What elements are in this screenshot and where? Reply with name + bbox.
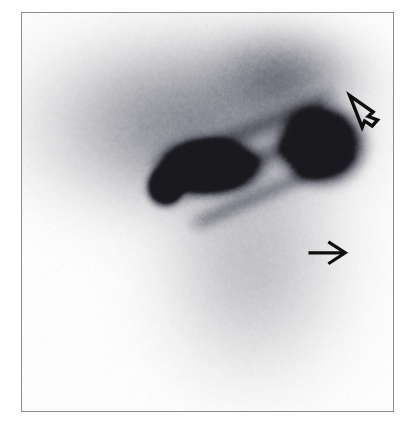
image-frame bbox=[21, 12, 394, 412]
scintigraphy-figure bbox=[0, 0, 404, 426]
scintigram-canvas bbox=[22, 13, 393, 411]
